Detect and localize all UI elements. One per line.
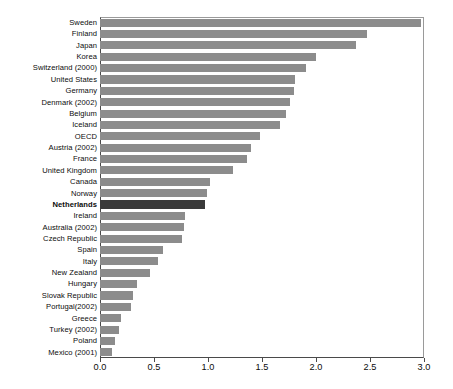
bar-row: Portugal(2002)	[0, 301, 453, 312]
bar-korea	[100, 53, 316, 61]
bar-australia-2002	[100, 223, 184, 231]
category-label-spain: Spain	[4, 244, 97, 255]
bar-row: France	[0, 153, 453, 164]
bar-row: Australia (2002)	[0, 222, 453, 233]
category-label-hungary: Hungary	[4, 278, 97, 289]
bar-austria-2002	[100, 144, 251, 152]
category-label-sweden: Sweden	[4, 17, 97, 28]
bar-row: Hungary	[0, 278, 453, 289]
bar-row: OECD	[0, 131, 453, 142]
category-label-korea: Korea	[4, 51, 97, 62]
category-label-ireland: Ireland	[4, 210, 97, 221]
bar-row: Netherlands	[0, 199, 453, 210]
bar-canada	[100, 178, 210, 186]
bar-row: Poland	[0, 335, 453, 346]
category-label-new-zealand: New Zealand	[4, 267, 97, 278]
bar-row: Norway	[0, 188, 453, 199]
bar-row: Czech Republic	[0, 233, 453, 244]
bar-row: Italy	[0, 256, 453, 267]
bar-netherlands	[100, 200, 205, 208]
bar-row: Denmark (2002)	[0, 97, 453, 108]
bar-united-kingdom	[100, 166, 233, 174]
bar-row: Slovak Republic	[0, 290, 453, 301]
bar-denmark-2002	[100, 98, 290, 106]
bar-row: Austria (2002)	[0, 142, 453, 153]
bar-spain	[100, 246, 163, 254]
bar-row: United States	[0, 74, 453, 85]
category-label-canada: Canada	[4, 176, 97, 187]
bar-oecd	[100, 132, 260, 140]
bar-mexico-2001	[100, 348, 112, 356]
bar-germany	[100, 87, 294, 95]
bar-row: Sweden	[0, 17, 453, 28]
bar-united-states	[100, 75, 295, 83]
category-label-turkey-2002: Turkey (2002)	[4, 324, 97, 335]
bar-sweden	[100, 19, 421, 27]
category-label-australia-2002: Australia (2002)	[4, 222, 97, 233]
bar-japan	[100, 41, 356, 49]
bar-row: Ireland	[0, 210, 453, 221]
category-label-poland: Poland	[4, 335, 97, 346]
bar-chart: SwedenFinlandJapanKoreaSwitzerland (2000…	[0, 0, 453, 389]
bar-finland	[100, 30, 367, 38]
bar-row: Spain	[0, 244, 453, 255]
bar-belgium	[100, 110, 286, 118]
bar-turkey-2002	[100, 326, 119, 334]
category-label-norway: Norway	[4, 188, 97, 199]
category-label-slovak-republic: Slovak Republic	[4, 290, 97, 301]
bar-new-zealand	[100, 269, 150, 277]
x-tick-label: 1.5	[256, 362, 269, 372]
category-label-united-kingdom: United Kingdom	[4, 165, 97, 176]
bar-row: United Kingdom	[0, 165, 453, 176]
category-label-france: France	[4, 153, 97, 164]
bar-row: Turkey (2002)	[0, 324, 453, 335]
bar-row: Switzerland (2000)	[0, 62, 453, 73]
bar-poland	[100, 337, 115, 345]
bar-portugal-2002	[100, 303, 131, 311]
category-label-united-states: United States	[4, 74, 97, 85]
bar-row: Germany	[0, 85, 453, 96]
bar-norway	[100, 189, 207, 197]
category-label-portugal-2002: Portugal(2002)	[4, 301, 97, 312]
bar-row: Mexico (2001)	[0, 347, 453, 358]
x-tick-label: 0.0	[94, 362, 107, 372]
bar-row: Iceland	[0, 119, 453, 130]
category-label-czech-republic: Czech Republic	[4, 233, 97, 244]
bar-ireland	[100, 212, 185, 220]
x-tick-label: 1.0	[202, 362, 215, 372]
category-label-denmark-2002: Denmark (2002)	[4, 97, 97, 108]
bar-hungary	[100, 280, 137, 288]
category-label-austria-2002: Austria (2002)	[4, 142, 97, 153]
bar-italy	[100, 257, 158, 265]
x-tick-label: 3.0	[418, 362, 431, 372]
bar-row: Belgium	[0, 108, 453, 119]
category-label-germany: Germany	[4, 85, 97, 96]
category-label-finland: Finland	[4, 28, 97, 39]
bar-row: New Zealand	[0, 267, 453, 278]
bar-czech-republic	[100, 235, 182, 243]
bar-slovak-republic	[100, 291, 133, 299]
category-label-mexico-2001: Mexico (2001)	[4, 347, 97, 358]
bar-iceland	[100, 121, 280, 129]
category-label-netherlands: Netherlands	[4, 199, 97, 210]
x-tick-label: 2.5	[364, 362, 377, 372]
category-label-japan: Japan	[4, 40, 97, 51]
category-label-iceland: Iceland	[4, 119, 97, 130]
x-tick-label: 0.5	[148, 362, 161, 372]
bar-row: Canada	[0, 176, 453, 187]
bar-france	[100, 155, 247, 163]
bar-row: Greece	[0, 313, 453, 324]
x-tick-label: 2.0	[310, 362, 323, 372]
bar-row: Japan	[0, 40, 453, 51]
category-label-switzerland-2000: Switzerland (2000)	[4, 62, 97, 73]
category-label-greece: Greece	[4, 313, 97, 324]
category-label-oecd: OECD	[4, 131, 97, 142]
category-label-italy: Italy	[4, 256, 97, 267]
bar-switzerland-2000	[100, 64, 306, 72]
category-label-belgium: Belgium	[4, 108, 97, 119]
bar-row: Finland	[0, 28, 453, 39]
bar-greece	[100, 314, 121, 322]
bar-row: Korea	[0, 51, 453, 62]
